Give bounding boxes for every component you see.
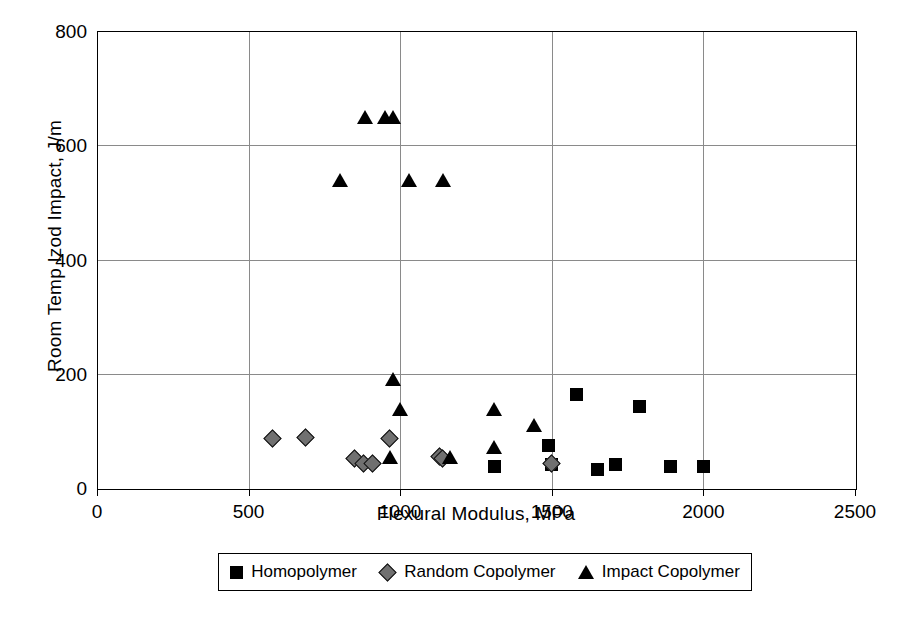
data-point-triangle (435, 173, 451, 187)
x-tick-label: 0 (52, 502, 142, 521)
x-gridline (703, 32, 704, 489)
data-point-square (542, 439, 555, 452)
y-gridline (98, 374, 856, 375)
x-gridline (400, 32, 401, 489)
legend-item-label: Homopolymer (251, 562, 357, 582)
y-tick-label: 0 (11, 479, 87, 498)
x-tick-mark (855, 489, 856, 496)
data-point-square (570, 388, 583, 401)
data-point-triangle (382, 450, 398, 464)
data-point-triangle (442, 450, 458, 464)
x-tick-label: 500 (204, 502, 294, 521)
y-tick-label: 200 (11, 365, 87, 384)
square-marker-icon (230, 566, 243, 579)
data-point-triangle (357, 110, 373, 124)
data-point-triangle (486, 440, 502, 454)
triangle-marker-icon (578, 565, 594, 579)
chart-legend: HomopolymerRandom CopolymerImpact Copoly… (218, 553, 752, 591)
legend-item-label: Random Copolymer (404, 562, 555, 582)
scatter-chart-figure: Room Temp Izod Impact, J/m Flexural Modu… (0, 0, 901, 621)
x-tick-label: 2000 (658, 502, 748, 521)
x-tick-label: 2500 (810, 502, 900, 521)
data-point-triangle (486, 402, 502, 416)
y-gridline (98, 145, 856, 146)
x-tick-mark (249, 489, 250, 496)
data-point-triangle (385, 372, 401, 386)
data-point-square (488, 460, 501, 473)
y-tick-label: 600 (11, 136, 87, 155)
y-gridline (98, 260, 856, 261)
diamond-marker-icon (379, 563, 397, 581)
legend-item-triangle[interactable]: Impact Copolymer (578, 562, 740, 582)
legend-item-label: Impact Copolymer (602, 562, 740, 582)
x-tick-label: 1000 (355, 502, 445, 521)
legend-item-square[interactable]: Homopolymer (230, 562, 357, 582)
x-tick-mark (703, 489, 704, 496)
data-point-triangle (385, 110, 401, 124)
legend-item-diamond[interactable]: Random Copolymer (379, 562, 555, 582)
data-point-triangle (332, 173, 348, 187)
data-point-triangle (401, 173, 417, 187)
data-point-square (697, 460, 710, 473)
y-axis-label: Room Temp Izod Impact, J/m (44, 11, 66, 481)
data-point-triangle (392, 402, 408, 416)
data-point-square (633, 400, 646, 413)
x-tick-mark (97, 489, 98, 496)
x-tick-label: 1500 (507, 502, 597, 521)
plot-area (97, 31, 857, 490)
data-point-triangle (526, 418, 542, 432)
x-gridline (552, 32, 553, 489)
x-gridline (249, 32, 250, 489)
y-tick-label: 400 (11, 251, 87, 270)
x-tick-mark (552, 489, 553, 496)
data-point-square (609, 458, 622, 471)
y-tick-label: 800 (11, 22, 87, 41)
x-tick-mark (400, 489, 401, 496)
data-point-square (591, 463, 604, 476)
data-point-square (664, 460, 677, 473)
